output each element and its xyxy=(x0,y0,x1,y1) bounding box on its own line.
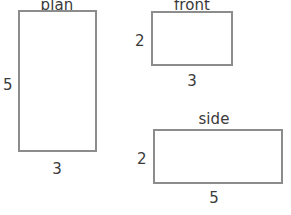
dimension-label-plan-height: 5 xyxy=(3,77,13,93)
drawing-canvas: plan 5 3 front 2 3 side 2 5 xyxy=(0,0,291,215)
view-title-side: side xyxy=(198,111,229,127)
view-rect-side xyxy=(153,129,283,184)
view-rect-plan xyxy=(18,10,97,152)
dimension-label-front-width: 3 xyxy=(187,73,197,89)
dimension-label-side-height: 2 xyxy=(137,151,147,167)
dimension-label-plan-width: 3 xyxy=(52,161,62,177)
view-rect-front xyxy=(151,11,233,66)
dimension-label-side-width: 5 xyxy=(209,190,219,206)
dimension-label-front-height: 2 xyxy=(135,33,145,49)
